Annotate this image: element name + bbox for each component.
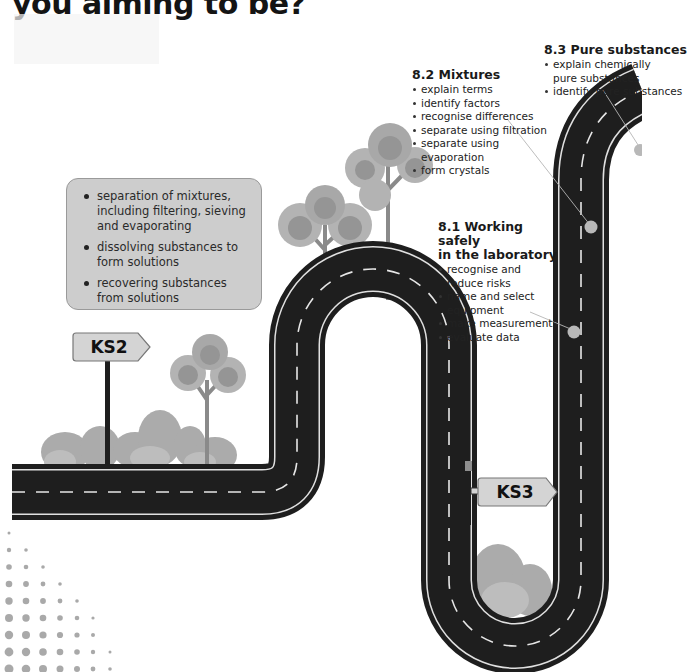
ks3-sign-label: KS3: [478, 478, 552, 506]
milestone-8-3: [634, 144, 642, 156]
topic-title: 8.2 Mixtures: [412, 68, 562, 82]
topic-item: form crystals: [412, 164, 562, 178]
topic-item: identify pure substances: [544, 85, 654, 99]
milestone-8-2: [585, 221, 598, 234]
topic-item: recognise differences: [412, 110, 562, 124]
topic-title-line-2: in the laboratory: [438, 248, 558, 262]
ks2-item: recovering substances from solutions: [97, 276, 253, 306]
topic-item: recognise and reduce risks: [438, 263, 558, 290]
topic-item: explain chemically pure substances: [544, 58, 654, 85]
topic-title: 8.3 Pure substances: [544, 43, 654, 57]
topic-item: evaluate data: [438, 331, 558, 345]
ks2-sign-label: KS2: [73, 333, 145, 361]
topic-item: separate using evaporation: [412, 137, 562, 164]
topic-item: identify factors: [412, 97, 562, 111]
ks2-item: dissolving substances to form solutions: [97, 240, 253, 270]
milestone-8-1: [568, 326, 581, 339]
dot-pattern-decoration: [5, 532, 112, 672]
topic-title-line-1: 8.1 Working safely: [438, 220, 558, 248]
topic-item: explain terms: [412, 83, 562, 97]
topic-8-2-mixtures: 8.2 Mixtures explain terms identify fact…: [412, 68, 562, 178]
topic-item: separate using filtration: [412, 124, 562, 138]
topic-item: make measurements: [438, 317, 558, 331]
ks2-summary-box: separation of mixtures, including filter…: [66, 178, 262, 310]
topic-8-1-working-safely: 8.1 Working safely in the laboratory rec…: [438, 220, 558, 344]
topic-8-3-pure-substances: 8.3 Pure substances explain chemically p…: [544, 43, 654, 99]
ks2-item: separation of mixtures, including filter…: [97, 189, 253, 234]
topic-item: name and select equipment: [438, 290, 558, 317]
